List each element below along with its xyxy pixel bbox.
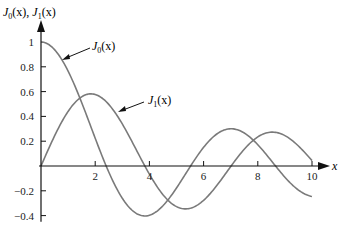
bessel-chart: 24681010.80.60.40.2−0.2−0.4 J0(x), J1(x)… (0, 0, 355, 232)
j0-arrowhead-icon (62, 54, 70, 60)
x-axis-title: x (331, 159, 338, 173)
y-tick-label: −0.4 (14, 210, 34, 222)
y-axis-arrow-icon (37, 20, 45, 32)
x-tick-label: 2 (92, 170, 98, 182)
j1-arrowhead-icon (118, 106, 126, 112)
y-tick-label: 0.6 (20, 86, 34, 98)
y-tick-label: 0.4 (20, 110, 34, 122)
y-tick-label: 1 (29, 36, 35, 48)
j0-arrow-line (66, 48, 90, 58)
x-tick-label: 4 (147, 170, 153, 182)
x-tick-label: 8 (255, 170, 261, 182)
y-tick-label: 0.8 (20, 61, 34, 73)
axes (37, 20, 330, 222)
j1-label: J1(x) (148, 93, 171, 109)
y-tick-label: −0.2 (14, 185, 34, 197)
ticks: 24681010.80.60.40.2−0.2−0.4 (14, 36, 318, 222)
x-tick-label: 6 (201, 170, 207, 182)
x-tick-label: 10 (307, 170, 319, 182)
x-axis-arrow-icon (318, 162, 330, 170)
y-axis-title: J0(x), J1(x) (3, 5, 56, 21)
j0-label: J0(x) (92, 39, 115, 55)
curve-j0x (41, 42, 312, 216)
curve-j1x (41, 94, 312, 209)
y-tick-label: 0.2 (20, 135, 34, 147)
j1-arrow-line (123, 102, 144, 110)
plot-curves (41, 42, 312, 216)
